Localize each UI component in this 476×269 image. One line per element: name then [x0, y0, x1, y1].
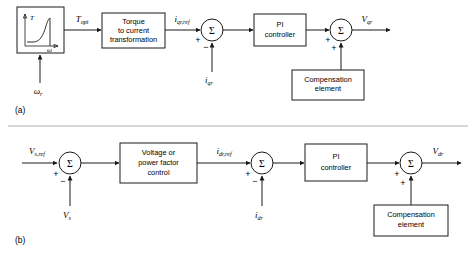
summing-b3-plus-in: +	[394, 169, 399, 179]
compensation-a-line2: element	[315, 84, 341, 93]
pi-controller-b-line2: controller	[321, 163, 352, 172]
figure-canvas: T ω ωr Topt Torque to current transforma…	[0, 0, 476, 269]
pi-controller-b-line1: PI	[333, 152, 340, 161]
block-diagram-svg: T ω ωr Topt Torque to current transforma…	[0, 0, 476, 269]
vdr-output-label: Vdr	[433, 146, 445, 157]
summing-b1-minus-sign: −	[60, 176, 65, 186]
caption-a: (a)	[15, 105, 26, 115]
compensation-b-line1: Compensation	[387, 210, 435, 219]
vqr-output-label: Vqr	[362, 14, 374, 25]
summing-a2-plus-in: +	[325, 35, 330, 45]
summing-a2-plus-comp: +	[331, 43, 336, 53]
idr-ref-label: idr,ref	[216, 146, 232, 157]
summing-junction-b3-symbol: Σ	[408, 158, 414, 169]
summing-junction-a1-symbol: Σ	[209, 25, 215, 36]
vpfc-line3: control	[147, 168, 170, 177]
summing-b1-plus-sign: +	[53, 169, 58, 179]
summing-junction-b1-symbol: Σ	[67, 158, 73, 169]
summing-a1-plus-sign: +	[195, 35, 200, 45]
vs-feedback-label: Vs	[63, 210, 72, 221]
summing-junction-a2-symbol: Σ	[338, 25, 344, 36]
idr-feedback-label: idr	[255, 210, 264, 221]
t-opt-label: Topt	[76, 14, 89, 25]
summing-b2-plus-sign: +	[245, 169, 250, 179]
caption-b: (b)	[15, 235, 26, 245]
summing-a1-minus-sign: −	[203, 42, 208, 52]
summing-b2-minus-sign: −	[252, 176, 257, 186]
torque-to-current-line2: to current	[118, 26, 149, 35]
iqr-feedback-label: iqr	[205, 75, 214, 86]
summing-junction-b2-symbol: Σ	[259, 158, 265, 169]
torque-to-current-line1: Torque	[122, 17, 145, 26]
iqr-ref-label: iqr,ref	[174, 14, 190, 25]
torque-to-current-line3: transformation	[110, 35, 157, 44]
pi-controller-a-line2: controller	[265, 30, 296, 39]
summing-b3-plus-comp: +	[400, 178, 405, 188]
compensation-a-line1: Compensation	[304, 75, 352, 84]
compensation-b-line2: element	[398, 220, 424, 229]
inset-x-axis-label: ω	[47, 46, 52, 54]
vpfc-line2: power factor	[138, 158, 179, 167]
vpfc-line1: Voltage or	[142, 148, 176, 157]
vs-ref-label: Vs,ref	[29, 146, 46, 157]
omega-r-label: ωr	[34, 86, 43, 97]
pi-controller-a-line1: PI	[277, 20, 284, 29]
